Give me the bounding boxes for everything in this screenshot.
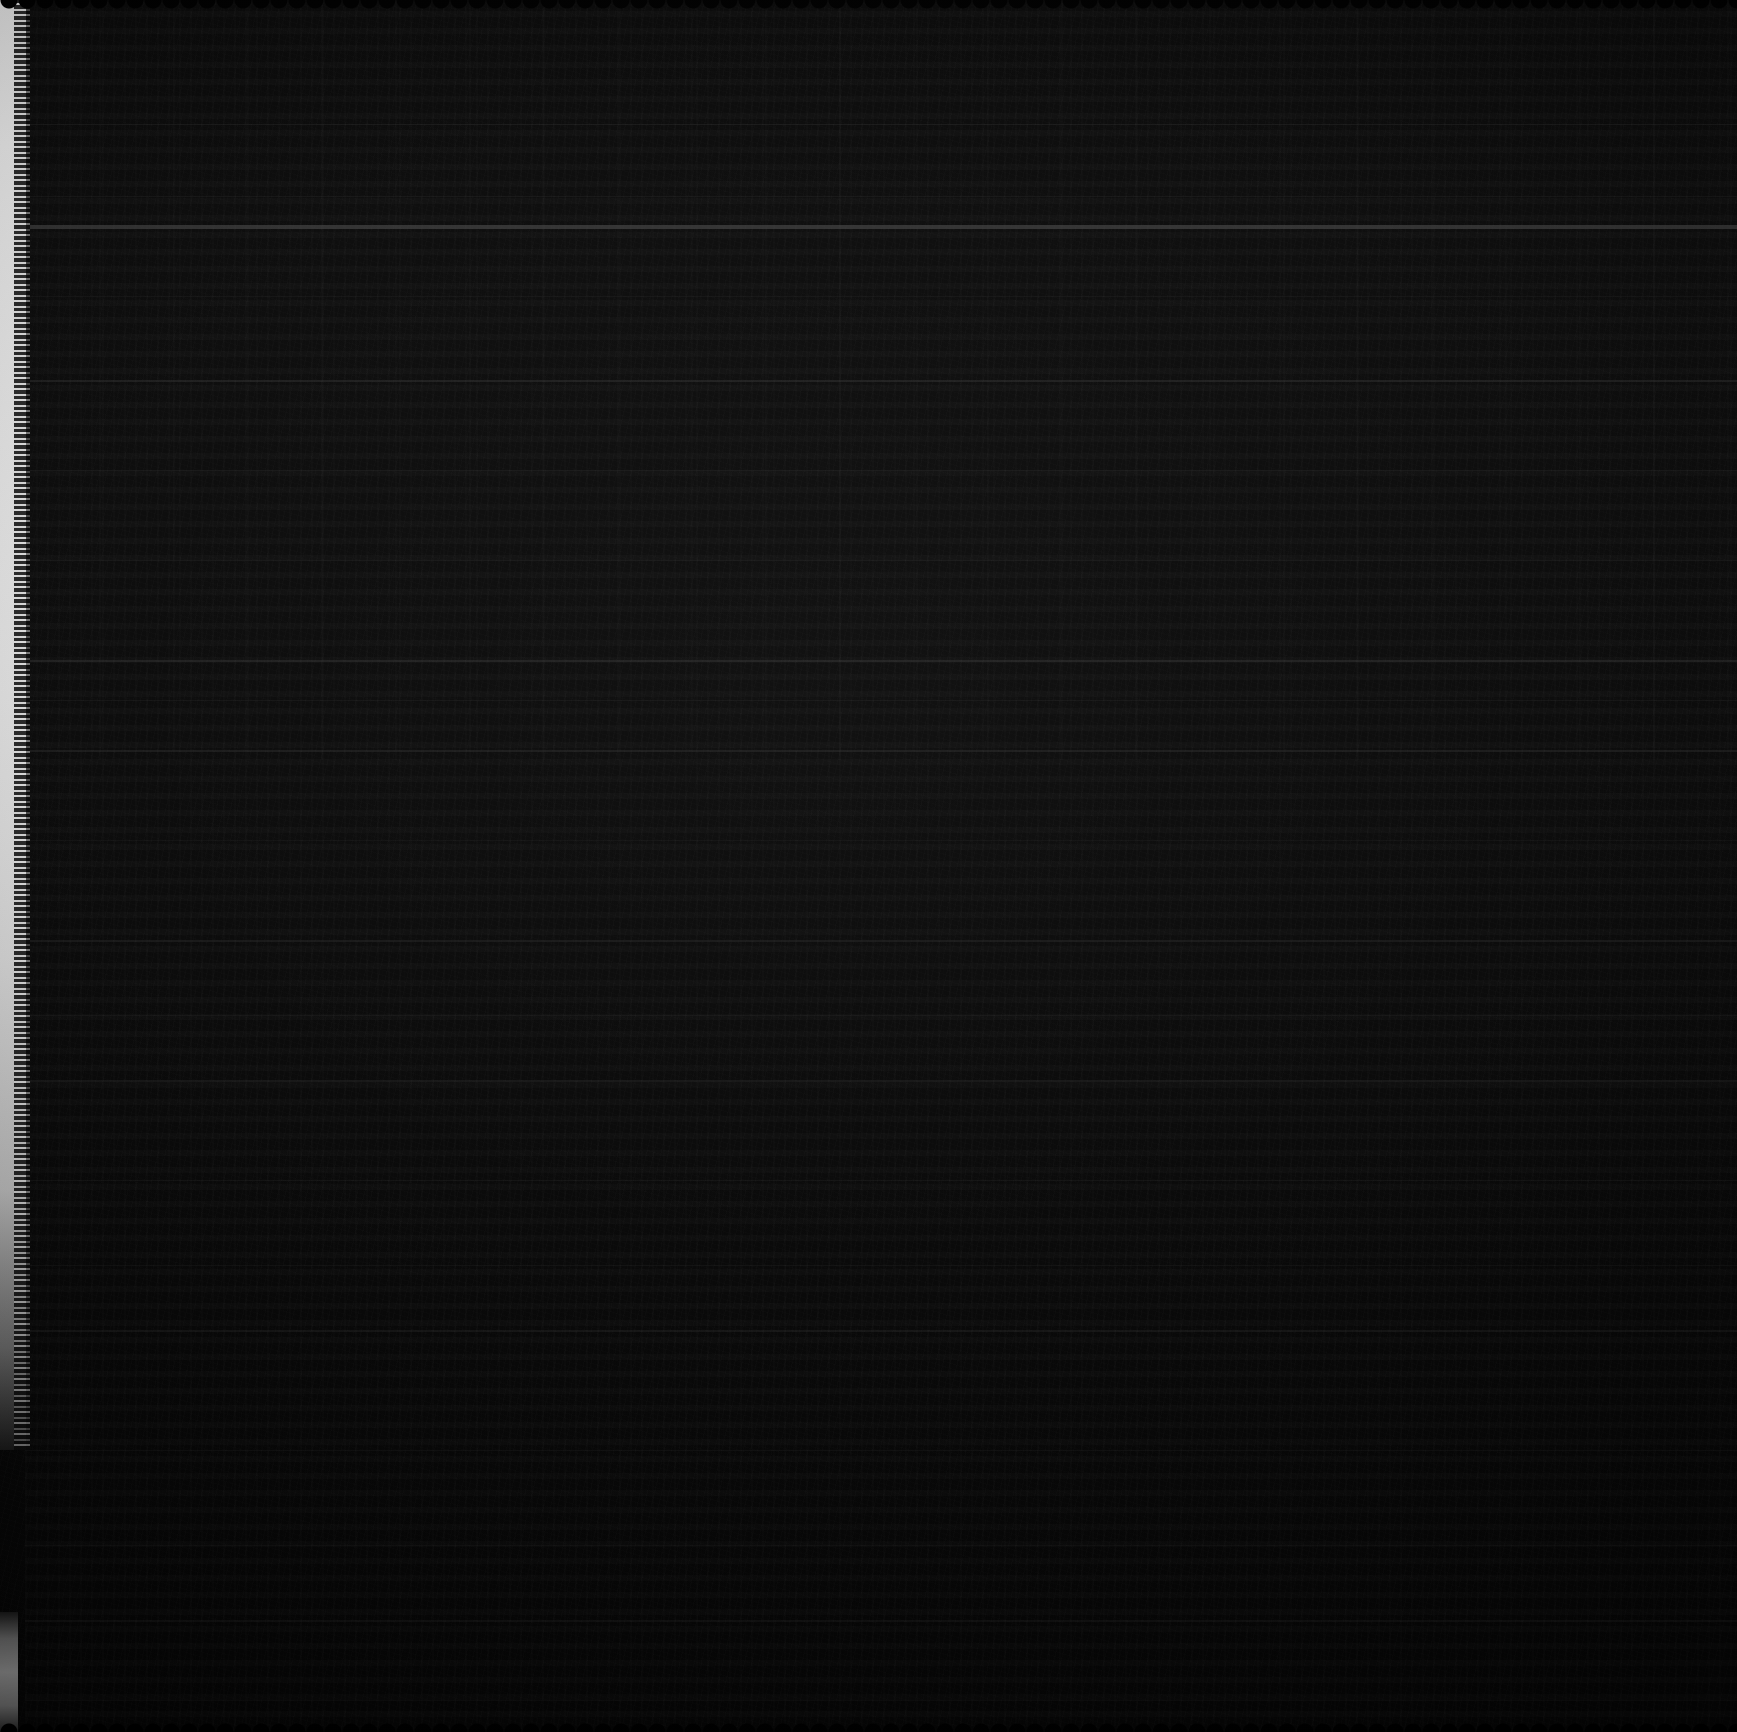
left-page-edge-strip: [0, 0, 26, 1450]
left-page-edge-tear: [14, 0, 30, 1450]
scanned-page: [0, 0, 1737, 1732]
document-sheet: [0, 0, 1737, 1732]
left-page-edge-strip-lower: [0, 1612, 18, 1732]
